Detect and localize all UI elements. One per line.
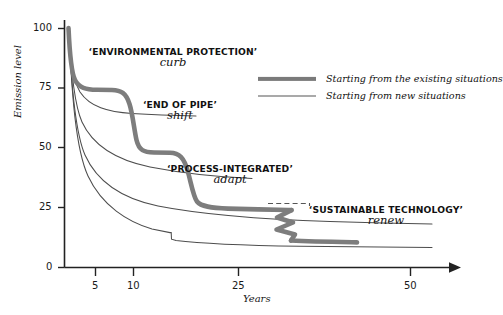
y-tick-label-50: 50 xyxy=(39,141,52,152)
y-tick-label-100: 100 xyxy=(33,22,52,33)
y-tick-label-0: 0 xyxy=(46,261,52,272)
annotation-sustainable-technology: ‘SUSTAINABLE TECHNOLOGY’ renew xyxy=(304,205,468,226)
legend-label-existing: Starting from the existing situations xyxy=(326,73,503,84)
annotation-environmental-protection: ‘ENVIRONMENTAL PROTECTION’ curb xyxy=(78,47,268,68)
x-axis-title: Years xyxy=(243,293,271,304)
y-tick-label-75: 75 xyxy=(39,81,52,92)
y-axis-title: Emission level xyxy=(12,45,23,118)
x-axis-arrow-icon xyxy=(449,262,461,273)
legend-item-new: Starting from new situations xyxy=(258,87,503,104)
annotation-process-integrated-sub: adapt xyxy=(155,173,305,185)
legend-label-new: Starting from new situations xyxy=(326,90,466,101)
legend-swatch-thick-line-icon xyxy=(258,74,316,84)
annotation-process-integrated: ‘PROCESS-INTEGRATED’ adapt xyxy=(155,164,305,185)
annotation-end-of-pipe-sub: shift xyxy=(120,109,240,121)
y-axis-ticks xyxy=(58,29,65,268)
y-tick-label-25: 25 xyxy=(39,201,52,212)
x-axis-ticks xyxy=(96,268,411,277)
x-tick-label-50: 50 xyxy=(404,280,417,291)
x-tick-label-10: 10 xyxy=(127,280,140,291)
chart-legend: Starting from the existing situations St… xyxy=(258,70,503,104)
annotation-sustainable-technology-sub: renew xyxy=(304,214,468,226)
x-tick-label-5: 5 xyxy=(92,280,98,291)
annotation-end-of-pipe: ‘END OF PIPE’ shift xyxy=(120,100,240,121)
legend-swatch-thin-line-icon xyxy=(258,91,316,101)
thick-curve-zigzag xyxy=(277,210,296,240)
legend-item-existing: Starting from the existing situations xyxy=(258,70,503,87)
x-tick-label-25: 25 xyxy=(232,280,245,291)
annotation-environmental-protection-sub: curb xyxy=(78,56,268,68)
thick-curve-tail xyxy=(291,241,357,243)
